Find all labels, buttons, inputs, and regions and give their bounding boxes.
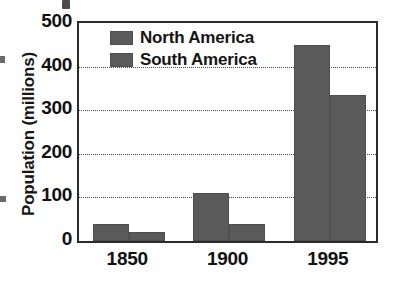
- x-axis-tick-labels: 185019001995: [77, 248, 378, 278]
- legend-item-north-america: North America: [110, 28, 257, 48]
- bar-south-america-1900: [229, 224, 265, 241]
- y-tick-label-300: 300: [28, 97, 72, 119]
- bar-south-america-1995: [330, 95, 366, 241]
- legend-swatch-north-america: [110, 31, 133, 45]
- y-tick-label-0: 0: [28, 228, 72, 250]
- y-tick-label-500: 500: [28, 10, 72, 32]
- bar-group-1995: [280, 23, 380, 241]
- chart-legend: North America South America: [110, 28, 257, 70]
- y-axis-tick-labels: 0100200300400500: [26, 0, 72, 296]
- bar-south-america-1850: [129, 232, 165, 241]
- bar-north-america-1995: [294, 45, 330, 241]
- cropped-edge-artifact-left-upper: [0, 56, 5, 63]
- plot-area: North America South America: [77, 21, 378, 243]
- y-tick-label-400: 400: [28, 54, 72, 76]
- y-tick-label-200: 200: [28, 141, 72, 163]
- x-tick-label-1900: 1900: [207, 248, 248, 270]
- chart-figure: Population (millions) 0100200300400500 N…: [0, 0, 405, 296]
- legend-label-north-america: North America: [140, 28, 254, 48]
- bar-north-america-1850: [93, 224, 129, 241]
- legend-label-south-america: South America: [140, 50, 257, 70]
- x-tick-label-1850: 1850: [107, 248, 148, 270]
- x-tick-label-1995: 1995: [307, 248, 348, 270]
- legend-swatch-south-america: [110, 53, 133, 67]
- cropped-edge-artifact-left-lower: [0, 196, 6, 202]
- bar-north-america-1900: [193, 193, 229, 241]
- legend-item-south-america: South America: [110, 50, 257, 70]
- y-tick-label-100: 100: [28, 184, 72, 206]
